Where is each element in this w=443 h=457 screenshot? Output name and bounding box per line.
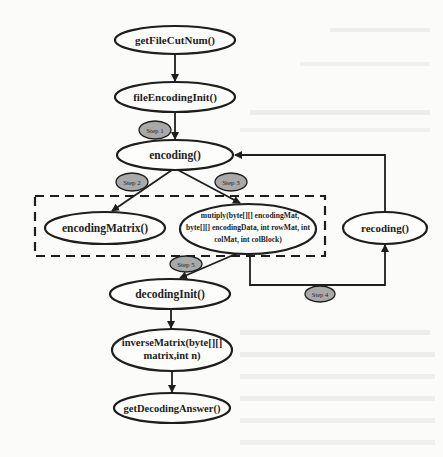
step-badge-1: Step 1 — [139, 121, 171, 139]
node-label: recoding() — [361, 222, 409, 235]
node-getdecodinganswer: getDecodingAnswer() — [114, 393, 230, 423]
node-label: mutiply(byte[][] encodingMat, — [201, 211, 299, 220]
step-label: Step 4 — [312, 291, 329, 298]
step-label: Step 5 — [177, 261, 195, 269]
node-decodinginit: decodingInit() — [110, 279, 230, 309]
node-label: encoding() — [149, 149, 201, 162]
node-getfilecutnum: getFileCutNum() — [115, 26, 235, 54]
step-badge-2: Step 2 — [116, 173, 148, 191]
step-badge-3: Step 3 — [215, 173, 247, 191]
step-badge-4: Step 4 — [305, 286, 335, 302]
node-label: inverseMatrix(byte[][] — [122, 337, 222, 349]
node-encoding: encoding() — [117, 140, 233, 170]
flowchart-canvas: getFileCutNum() fileEncodingInit() encod… — [0, 0, 443, 457]
node-label: colMat, int colBlock) — [214, 235, 282, 244]
flowchart-svg: getFileCutNum() fileEncodingInit() encod… — [0, 0, 443, 457]
node-label: decodingInit() — [135, 288, 205, 301]
step-label: Step 3 — [222, 179, 240, 187]
step-label: Step 1 — [146, 127, 164, 135]
step-badge-5: Step 5 — [170, 256, 202, 272]
node-fileencodinginit: fileEncodingInit() — [115, 82, 235, 112]
node-multiply: mutiply(byte[][] encodingMat, byte[][] e… — [180, 204, 316, 254]
step-label: Step 2 — [123, 179, 141, 187]
node-recoding: recoding() — [343, 212, 427, 244]
node-inversematrix: inverseMatrix(byte[][] matrix,int n) — [112, 329, 232, 371]
node-label: byte[][] encodingData, int rowMat, int — [186, 223, 310, 232]
node-encodingmatrix: encodingMatrix() — [45, 212, 165, 244]
node-label: getDecodingAnswer() — [124, 403, 221, 415]
node-label: getFileCutNum() — [135, 34, 215, 47]
node-label: encodingMatrix() — [62, 222, 148, 235]
node-label: matrix,int n) — [143, 350, 201, 362]
node-label: fileEncodingInit() — [133, 91, 217, 104]
